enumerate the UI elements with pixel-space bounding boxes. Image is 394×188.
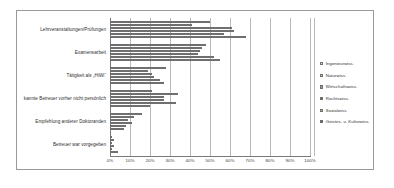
x-tick-label: 20% xyxy=(145,158,154,163)
legend-swatch-icon xyxy=(320,97,323,100)
legend-label: Naturwiss. xyxy=(326,73,347,78)
legend-label: Ingenieurwiss. xyxy=(326,61,354,66)
bar[interactable] xyxy=(110,36,246,38)
x-tick-label: 60% xyxy=(225,158,234,163)
x-tick-label: 30% xyxy=(165,158,174,163)
x-tick-label: 80% xyxy=(265,158,274,163)
legend-label: Wirtschaftswiss. xyxy=(326,84,358,89)
x-tick-label: 0% xyxy=(107,158,114,163)
legend-item[interactable]: Rechtswiss. xyxy=(320,93,374,105)
legend-label: Sozialwiss. xyxy=(326,108,348,113)
bar-group xyxy=(110,113,310,130)
x-tick-label: 10% xyxy=(125,158,134,163)
x-tick-label: 50% xyxy=(205,158,214,163)
x-tick-label: 70% xyxy=(245,158,254,163)
legend-item[interactable]: Naturwiss. xyxy=(320,70,374,82)
plot-area xyxy=(110,18,310,156)
chart-figure: Lehrveranstaltungen/PrüfungenExamensarbe… xyxy=(0,0,394,188)
legend-swatch-icon xyxy=(320,120,323,123)
legend-item[interactable]: Geistes- u. Kulturwiss. xyxy=(320,116,374,128)
legend-swatch-icon xyxy=(320,109,323,112)
x-tick-label: 90% xyxy=(285,158,294,163)
bar-row xyxy=(110,82,310,84)
legend-item[interactable]: Ingenieurwiss. xyxy=(320,58,374,70)
bar[interactable] xyxy=(110,59,220,61)
x-tick-label: 100% xyxy=(304,158,316,163)
gridline-100 xyxy=(310,18,311,156)
bar[interactable] xyxy=(110,105,150,107)
legend-swatch-icon xyxy=(320,85,323,88)
bar-row xyxy=(110,128,310,130)
bar-row xyxy=(110,59,310,61)
bar[interactable] xyxy=(110,151,118,153)
bar-group xyxy=(110,44,310,61)
legend-label: Rechtswiss. xyxy=(326,96,349,101)
bar-group xyxy=(110,90,310,107)
legend-swatch-icon xyxy=(320,62,323,65)
category-label: Lehrveranstaltungen/Prüfungen xyxy=(2,27,106,32)
legend-swatch-icon xyxy=(320,74,323,77)
bar-row xyxy=(110,105,310,107)
bar-group xyxy=(110,67,310,84)
legend-item[interactable]: Sozialwiss. xyxy=(320,104,374,116)
bar-group xyxy=(110,21,310,38)
bar-group xyxy=(110,136,310,153)
bar-row xyxy=(110,151,310,153)
category-label: Empfehlung anderer Doktoranden xyxy=(2,119,106,124)
bar-row xyxy=(110,36,310,38)
legend-label: Geistes- u. Kulturwiss. xyxy=(326,119,370,124)
legend-divider xyxy=(314,18,315,156)
chart-legend: Ingenieurwiss.Naturwiss.Wirtschaftswiss.… xyxy=(320,58,374,128)
category-label: Betreuer war vorgegeben xyxy=(2,142,106,147)
category-label: Tätigkeit als „HiWi“ xyxy=(2,73,106,78)
bar[interactable] xyxy=(110,82,164,84)
x-tick-label: 40% xyxy=(185,158,194,163)
category-label: Examensarbeit xyxy=(2,50,106,55)
x-axis-line xyxy=(110,156,311,157)
category-label: kannte Betreuer vorher nicht persönlich xyxy=(2,96,106,101)
category-axis-labels: Lehrveranstaltungen/PrüfungenExamensarbe… xyxy=(0,18,106,156)
bar[interactable] xyxy=(110,128,124,130)
legend-item[interactable]: Wirtschaftswiss. xyxy=(320,81,374,93)
